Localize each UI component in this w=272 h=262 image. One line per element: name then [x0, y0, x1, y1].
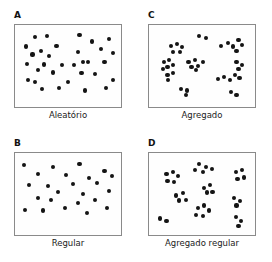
data-point	[171, 170, 175, 174]
panel-b-caption: Regular	[14, 238, 122, 249]
data-point	[56, 190, 60, 194]
data-point	[166, 78, 170, 82]
data-point	[63, 206, 67, 210]
data-point	[83, 88, 87, 92]
data-point	[197, 34, 201, 38]
data-point	[189, 65, 193, 69]
data-point	[26, 78, 30, 82]
data-point	[165, 65, 169, 69]
data-point	[210, 190, 214, 194]
data-point	[81, 60, 85, 64]
data-point	[165, 179, 169, 183]
panel-b-letter: B	[14, 138, 21, 149]
data-point	[240, 43, 244, 47]
data-point	[90, 39, 94, 43]
panel-a: A Aleatório	[14, 10, 122, 122]
data-point	[104, 86, 108, 90]
data-point	[102, 169, 106, 173]
data-point	[201, 214, 205, 218]
data-point	[201, 170, 205, 174]
data-point	[177, 198, 181, 202]
data-point	[180, 45, 184, 49]
data-point	[228, 78, 232, 82]
data-point	[71, 182, 75, 186]
data-point	[234, 49, 238, 53]
data-point	[76, 50, 80, 54]
data-point	[46, 184, 50, 188]
data-point	[54, 44, 58, 48]
data-point	[105, 206, 109, 210]
data-point	[36, 68, 40, 72]
data-point	[41, 208, 45, 212]
data-point	[93, 198, 97, 202]
data-point	[201, 60, 205, 64]
data-point	[226, 41, 230, 45]
data-point	[99, 47, 103, 51]
data-point	[175, 42, 179, 46]
data-point	[85, 211, 89, 215]
data-point	[181, 191, 185, 195]
spatial-distribution-figure: A Aleatório C Agregado B Regular D Agreg…	[0, 0, 272, 262]
data-point	[60, 63, 64, 67]
data-point	[237, 76, 241, 80]
data-point	[81, 192, 85, 196]
data-point	[164, 172, 168, 176]
panel-a-plot	[14, 24, 122, 108]
data-point	[234, 215, 238, 219]
data-point	[185, 88, 189, 92]
panel-b: B Regular	[14, 138, 122, 250]
data-point	[178, 50, 182, 54]
data-point	[208, 183, 212, 187]
data-point	[222, 75, 226, 79]
data-point	[165, 73, 169, 77]
data-point	[193, 58, 197, 62]
data-point	[107, 37, 111, 41]
data-point	[164, 219, 168, 223]
data-point	[23, 208, 27, 212]
data-point	[167, 58, 171, 62]
data-point	[87, 176, 91, 180]
data-point	[234, 203, 238, 207]
data-point	[161, 67, 165, 71]
data-point	[229, 90, 233, 94]
panel-c-caption: Agregado	[148, 110, 256, 121]
panel-d: D Agregado regular	[148, 138, 256, 250]
data-point	[186, 60, 190, 64]
data-point	[204, 165, 208, 169]
data-point	[238, 199, 242, 203]
data-point	[40, 87, 44, 91]
data-point	[45, 34, 49, 38]
data-point	[179, 87, 183, 91]
panel-d-caption: Agregado regular	[148, 238, 256, 249]
data-point	[184, 93, 188, 97]
data-point	[236, 224, 240, 228]
data-point	[194, 68, 198, 72]
data-point	[95, 181, 99, 185]
data-point	[51, 165, 55, 169]
panel-a-caption: Aleatório	[14, 110, 122, 121]
data-point	[242, 175, 246, 179]
data-point	[36, 172, 40, 176]
data-point	[240, 63, 244, 67]
data-point	[240, 168, 244, 172]
data-point	[79, 71, 83, 75]
data-point	[24, 44, 28, 48]
data-point	[219, 44, 223, 48]
data-point	[234, 93, 238, 97]
data-point	[204, 36, 208, 40]
data-point	[169, 44, 173, 48]
data-point	[93, 72, 97, 76]
data-point	[234, 60, 238, 64]
panel-c-letter: C	[148, 10, 155, 21]
data-point	[231, 44, 235, 48]
panel-d-letter: D	[148, 138, 156, 149]
panel-c-plot	[148, 24, 256, 108]
data-point	[25, 62, 29, 66]
data-point	[102, 60, 106, 64]
data-point	[234, 170, 238, 174]
data-point	[162, 60, 166, 64]
data-point	[33, 35, 37, 39]
data-point	[210, 167, 214, 171]
data-point	[197, 162, 201, 166]
panel-c: C Agregado	[148, 10, 256, 122]
